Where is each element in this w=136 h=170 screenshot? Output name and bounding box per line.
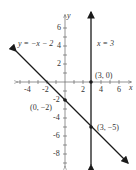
- point-3-0: [89, 80, 93, 84]
- y-tick-label: -6: [53, 132, 60, 140]
- line-label-vertical: x = 3: [97, 40, 114, 48]
- y-tick-label: 6: [57, 24, 61, 32]
- x-tick-label: -2: [42, 86, 49, 94]
- point-label-0-neg2: (0, −2): [30, 104, 52, 112]
- x-axis: [17, 80, 131, 84]
- point-label-3-0: (3, 0): [95, 72, 112, 80]
- point-3-neg5: [89, 125, 93, 129]
- point-label-3-neg5: (3, −5): [97, 124, 119, 132]
- y-tick-label: -4: [53, 114, 60, 122]
- point-0-neg2: [63, 98, 67, 102]
- x-tick-label: 4: [99, 86, 103, 94]
- line-label-slanted: y = −x − 2: [18, 40, 53, 48]
- coordinate-plane: [0, 0, 136, 170]
- y-tick-label: -8: [53, 150, 60, 158]
- x-tick-label: -4: [24, 86, 31, 94]
- y-axis-label: y: [67, 12, 71, 20]
- y-tick-label: -2: [53, 96, 60, 104]
- y-tick-label: 2: [57, 60, 61, 68]
- y-axis: [63, 15, 67, 167]
- y-tick-label: 4: [57, 42, 61, 50]
- graph-figure: y x -4 -2 2 4 6 6 4 2 -2 -4 -6 -8 y = −x…: [0, 0, 136, 170]
- x-tick-label: 2: [81, 86, 85, 94]
- x-axis-label: x: [129, 84, 133, 92]
- x-tick-label: 6: [117, 86, 121, 94]
